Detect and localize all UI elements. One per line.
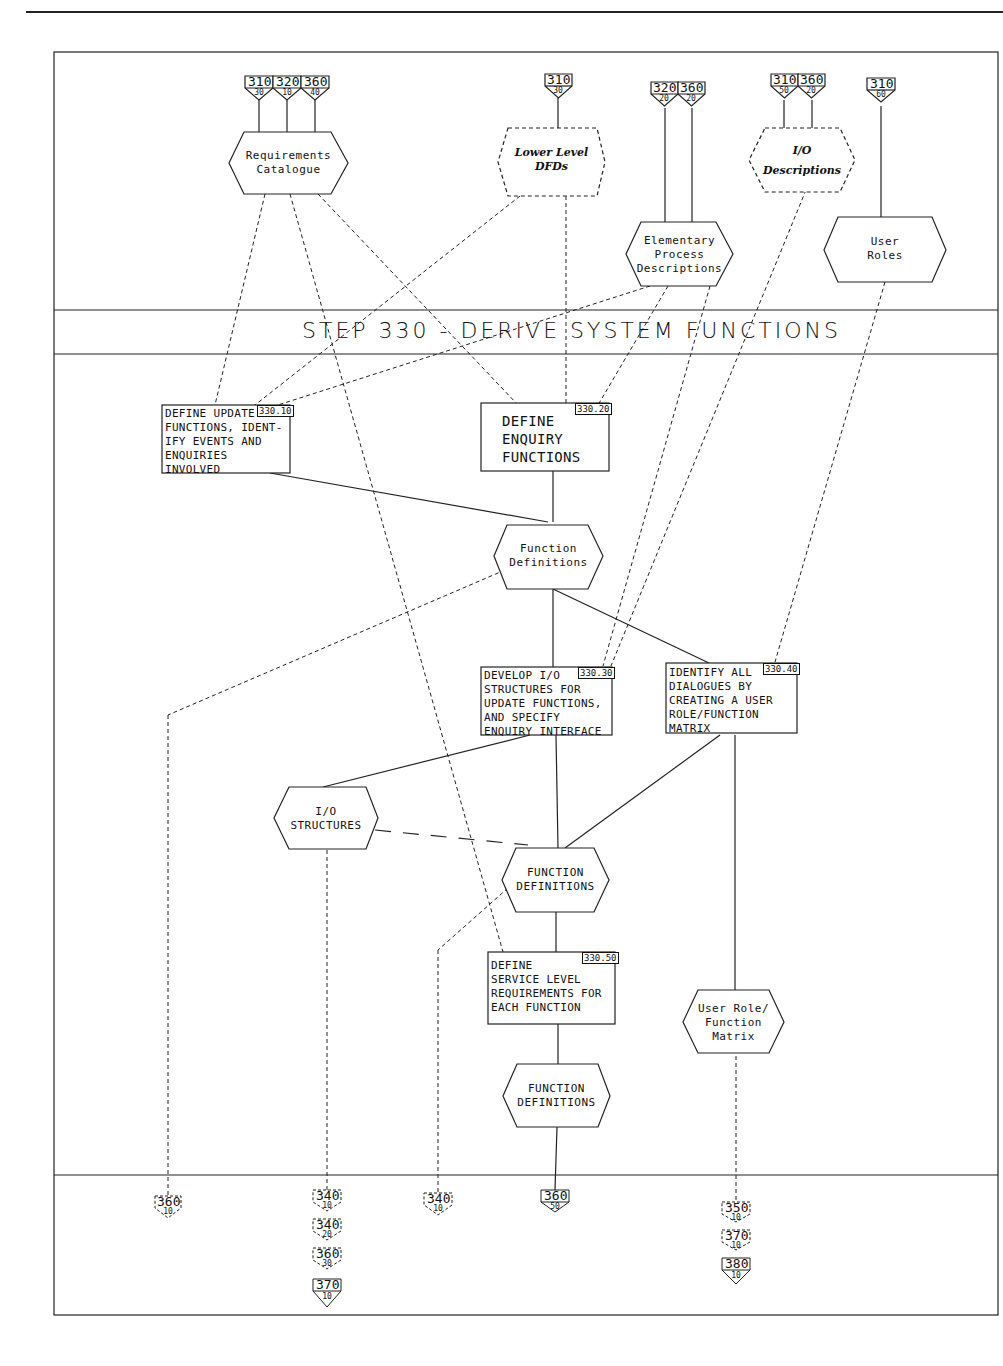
task-330-20-id: 330.20 (575, 403, 612, 415)
task-330-30-text: DEVELOP I/O STRUCTURES FOR UPDATE FUNCTI… (484, 669, 612, 739)
io-structures-label: I/O STRUCTURES (274, 805, 378, 833)
task-330-50-id: 330.50 (582, 952, 619, 964)
requirements-catalogue-label: Requirements Catalogue (229, 149, 348, 177)
task-330-30-id: 330.30 (578, 667, 615, 679)
task-330-40-id: 330.40 (763, 663, 800, 675)
task-330-50-text: DEFINE SERVICE LEVEL REQUIREMENTS FOR EA… (491, 959, 615, 1015)
elementary-process-descriptions-label: Elementary Process Descriptions (626, 234, 733, 275)
user-roles-label: User Roles (824, 235, 946, 263)
lower-level-dfds-label: Lower Level DFDs (498, 146, 605, 174)
task-330-20-text: DEFINE ENQUIRY FUNCTIONS (502, 412, 602, 466)
function-definitions-2-label: FUNCTION DEFINITIONS (502, 866, 609, 894)
task-330-40-text: IDENTIFY ALL DIALOGUES BY CREATING A USE… (669, 666, 797, 736)
function-definitions-1-label: Function Definitions (494, 542, 603, 570)
step-title: STEP 330 - DERIVE SYSTEM FUNCTIONS (302, 318, 841, 343)
task-330-10-id: 330.10 (257, 405, 294, 417)
user-role-function-matrix-label: User Role/ Function Matrix (683, 1002, 784, 1043)
task-330-10-text: DEFINE UPDATE FUNCTIONS, IDENT- IFY EVEN… (165, 407, 289, 477)
function-definitions-3-label: FUNCTION DEFINITIONS (503, 1082, 610, 1110)
io-descriptions-label: I/O Descriptions (749, 141, 855, 181)
